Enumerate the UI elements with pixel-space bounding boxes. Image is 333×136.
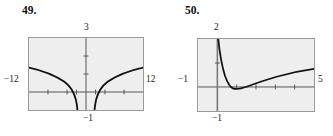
axis-label-right-50: 5 bbox=[318, 74, 323, 84]
problem-number-49: 49. bbox=[22, 4, 36, 16]
curve-left-branch-49 bbox=[29, 68, 77, 110]
axis-label-left-50: −1 bbox=[178, 74, 188, 84]
problem-number-50: 50. bbox=[185, 4, 199, 16]
figure-49: 49. 3 −1 bbox=[0, 0, 166, 136]
plot-frame-50 bbox=[197, 38, 315, 112]
plot-canvas-49 bbox=[29, 38, 143, 110]
axis-label-left-49: −12 bbox=[4, 74, 19, 84]
figure-50: 50. 2 −1 5 −1 bbox=[166, 0, 333, 136]
curve-50 bbox=[218, 39, 314, 89]
axis-label-bottom-50: −1 bbox=[212, 113, 222, 123]
plot-frame-49 bbox=[28, 37, 144, 111]
axis-label-bottom-49: −1 bbox=[83, 113, 93, 123]
axis-label-right-49: 12 bbox=[146, 74, 156, 84]
curve-right-branch-49 bbox=[95, 68, 143, 110]
axis-label-top-50: 2 bbox=[214, 22, 219, 32]
axis-label-top-49: 3 bbox=[84, 22, 89, 32]
plot-canvas-50 bbox=[198, 39, 314, 111]
